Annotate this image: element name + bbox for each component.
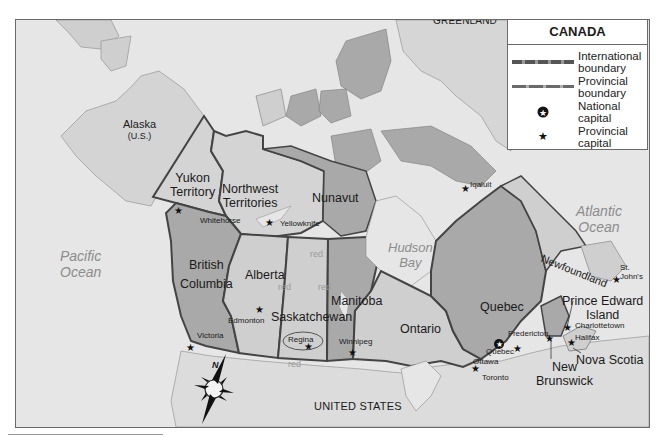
hudson-line-2: Bay [388, 256, 433, 271]
red-annotation-4: red [288, 359, 301, 369]
ottawa-label: Ottawa [473, 357, 498, 366]
victoria-label: Victoria [197, 331, 224, 340]
charlottetown-label: Charlottetown [575, 321, 624, 330]
saskatchewan-label: Saskatchewan [271, 310, 352, 324]
yukon-line-2: Territory [170, 185, 215, 199]
iqaluit-label: Iqaluit [470, 180, 491, 189]
red-annotation-1: red [310, 249, 323, 259]
atlantic-line-2: Ocean [576, 219, 622, 235]
atlantic-ocean-label: Atlantic Ocean [576, 203, 622, 235]
legend-label: Provincial [578, 125, 628, 137]
international-boundary-icon [512, 60, 574, 64]
edmonton-label: Edmonton [228, 316, 264, 325]
legend-title: CANADA [508, 20, 647, 45]
legend-item-national-capital: ★ National capital [508, 99, 647, 124]
provincial-capital-icon: ★ [538, 130, 548, 143]
st-johns-line-2: John's [620, 272, 643, 281]
footer-divider [8, 434, 163, 435]
map-legend: CANADA International boundary Provincial… [507, 19, 648, 150]
whitehorse-label: Whitehorse [200, 216, 240, 225]
legend-item-provincial: Provincial boundary [508, 74, 647, 99]
yellowknife-star: ★ [265, 217, 274, 228]
provincial-boundary-icon [512, 85, 574, 88]
st-johns-label: St. John's [620, 263, 643, 281]
alaska-line-2: (U.S.) [123, 131, 156, 141]
pei-label: Prince Edward Island [562, 294, 643, 323]
iqaluit-star: ★ [461, 183, 470, 194]
red-annotation-3: red [318, 282, 331, 292]
legend-item-provincial-capital: ★ Provincial capital [508, 124, 647, 149]
regina-label: Regina [288, 335, 313, 344]
quebec-label: Quebec [480, 300, 524, 314]
hudson-bay-label: Hudson Bay [388, 241, 433, 271]
alaska-line-1: Alaska [123, 118, 156, 131]
alaska-label: Alaska (U.S.) [123, 118, 156, 141]
nb-line-1: New [536, 360, 593, 374]
edmonton-star: ★ [255, 304, 264, 315]
alberta-label: Alberta [245, 268, 285, 282]
nb-line-2: Brunswick [536, 374, 593, 388]
legend-label: capital [578, 137, 628, 149]
legend-label: Provincial [578, 75, 628, 87]
st-johns-line-1: St. [620, 263, 643, 272]
nwt-line-2: Territories [222, 196, 278, 210]
quebec-star: ★ [513, 343, 522, 354]
yellowknife-label: Yellowknife [280, 219, 320, 228]
victoria-star: ★ [186, 342, 195, 353]
hudson-line-1: Hudson [388, 241, 433, 256]
pei-line-1: Prince Edward [562, 294, 643, 308]
legend-label: National [578, 100, 620, 112]
whitehorse-star: ★ [174, 205, 183, 216]
bc-label: British Columbia [180, 258, 233, 292]
legend-label: capital [578, 112, 620, 124]
ontario-label: Ontario [400, 322, 441, 336]
compass-north-label: N [212, 360, 219, 370]
nunavut-label: Nunavut [312, 191, 359, 205]
toronto-label: Toronto [482, 373, 509, 382]
pacific-ocean-label: Pacific Ocean [60, 248, 101, 280]
winnipeg-star: ★ [348, 347, 357, 358]
halifax-label: Halifax [575, 333, 599, 342]
pacific-line-2: Ocean [60, 264, 101, 280]
fredericton-label: Fredericton [508, 329, 548, 338]
yukon-line-1: Yukon [170, 171, 215, 185]
red-annotation-2: red [278, 282, 291, 292]
winnipeg-label: Winnipeg [339, 337, 372, 346]
usa-label: UNITED STATES [314, 400, 402, 413]
atlantic-line-1: Atlantic [576, 203, 622, 219]
pacific-line-1: Pacific [60, 248, 101, 264]
quebec-city-label: Quebec [486, 347, 514, 356]
yukon-label: Yukon Territory [170, 171, 215, 200]
legend-label: boundary [578, 62, 641, 74]
bc-line-1: British [180, 258, 233, 272]
legend-label: International [578, 50, 641, 62]
national-capital-icon: ★ [537, 106, 549, 118]
arctic-ocean-label: Arctic Ocean [159, 19, 239, 22]
legend-label: boundary [578, 87, 628, 99]
greenland-label: GREENLAND [433, 19, 497, 27]
bc-line-2: Columbia [180, 277, 233, 291]
legend-item-international: International boundary [508, 49, 647, 74]
nwt-label: Northwest Territories [222, 182, 278, 211]
svg-text:★: ★ [539, 107, 547, 117]
nb-label: New Brunswick [536, 360, 593, 389]
nwt-line-1: Northwest [222, 182, 278, 196]
manitoba-label: Manitoba [331, 294, 382, 308]
